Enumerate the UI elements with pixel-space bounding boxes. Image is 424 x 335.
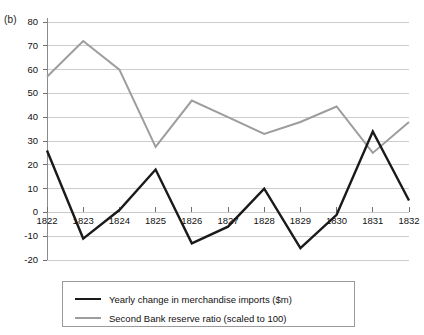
x-tick-label: 1832: [392, 216, 424, 226]
x-tick-label: 1830: [320, 216, 354, 226]
legend-entry: Second Bank reserve ratio (scaled to 100…: [75, 310, 286, 326]
legend-entry: Yearly change in merchandise imports ($m…: [75, 291, 292, 307]
x-tick-label: 1831: [356, 216, 390, 226]
y-tick-label: 30: [14, 136, 38, 146]
series-line: [47, 41, 409, 153]
y-tick-label: 20: [14, 160, 38, 170]
x-tick-label: 1827: [211, 216, 245, 226]
legend-line-swatch: [75, 298, 101, 300]
x-tick-label: 1828: [247, 216, 281, 226]
y-tick-label: 10: [14, 184, 38, 194]
chart-legend: Yearly change in merchandise imports ($m…: [62, 281, 355, 327]
x-tick-label: 1822: [30, 216, 64, 226]
x-tick-label: 1829: [283, 216, 317, 226]
legend-label: Second Bank reserve ratio (scaled to 100…: [109, 313, 286, 324]
x-tick-label: 1823: [66, 216, 100, 226]
x-tick-label: 1825: [139, 216, 173, 226]
y-tick-label: 70: [14, 41, 38, 51]
plot-area: 80706050403020100-10-20 1822182318241825…: [0, 0, 417, 275]
y-tick-label: -10: [14, 231, 38, 241]
y-tick-label: 80: [14, 17, 38, 27]
x-tick-label: 1826: [175, 216, 209, 226]
legend-line-swatch: [75, 317, 101, 319]
y-tick-label: 50: [14, 88, 38, 98]
legend-label: Yearly change in merchandise imports ($m…: [109, 294, 292, 305]
x-tick-label: 1824: [102, 216, 136, 226]
y-tick-label: -20: [14, 255, 38, 265]
y-tick-label: 60: [14, 65, 38, 75]
chart-svg: [0, 0, 417, 275]
y-tick-label: 40: [14, 112, 38, 122]
series-line: [47, 131, 409, 248]
